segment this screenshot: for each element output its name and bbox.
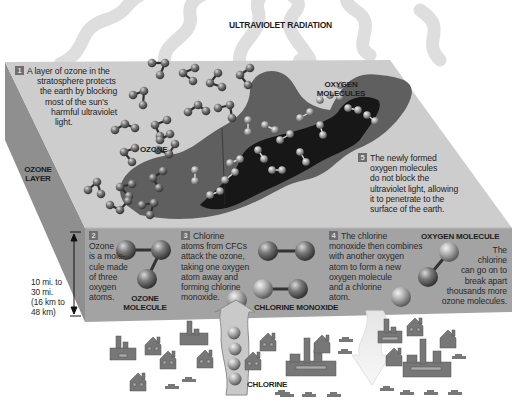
- step-2-text: 2 Ozone is a mole- cule made of three ox…: [89, 231, 139, 302]
- step-2-line: oxygen: [89, 282, 139, 292]
- step-2-line: Ozone: [89, 241, 139, 251]
- ozone-molecule-label: OZONE MOLECULE: [120, 294, 170, 312]
- ozone-layer-line: OZONE: [18, 165, 58, 174]
- oxygen-molecule-label: OXYGEN MOLECULE: [421, 232, 499, 241]
- step-3-line: atom away and: [181, 272, 263, 282]
- step-1-line: most of the sun's: [15, 97, 145, 107]
- step-6-line: The: [425, 245, 507, 255]
- step-2-badge: 2: [89, 231, 98, 240]
- step-6-text: The chlorine can go on to break apart th…: [425, 245, 507, 306]
- ozone-molecule-line: MOLECULE: [120, 303, 170, 312]
- oxygen-molecules-line: MOLECULES: [316, 89, 366, 98]
- step-2-line: of three: [89, 272, 139, 282]
- ozone-molecule-line: OZONE: [120, 294, 170, 303]
- step-1-line: light.: [15, 117, 145, 127]
- step-1-line: A layer of ozone in the: [27, 66, 110, 76]
- step-3-text: 3Chlorine atoms from CFCs attack the ozo…: [181, 231, 263, 302]
- step-2-line: is a mole-: [89, 251, 139, 261]
- ozone-label: OZONE: [140, 145, 167, 154]
- step-3-line: forming chlorine: [181, 282, 263, 292]
- oxygen-molecules-line: OXYGEN: [316, 80, 366, 89]
- step-6-line: ozone molecules.: [425, 296, 507, 306]
- step-4-line: atom to form a new: [329, 262, 429, 272]
- step-3-line: atoms from CFCs: [181, 241, 263, 251]
- step-4-badge: 4: [329, 231, 338, 240]
- step-4-line: oxygen molecule: [329, 272, 429, 282]
- altitude-line: 10 mi. to: [31, 277, 71, 287]
- step-5-badge: 5: [358, 153, 367, 162]
- step-5-line: do not block the: [358, 173, 498, 183]
- step-2-line: cule made: [89, 262, 139, 272]
- ozone-depletion-diagram: ULTRAVIOLET RADIATION 1A layer of ozone …: [0, 0, 512, 405]
- step-4-line: and a chlorine: [329, 282, 429, 292]
- step-1-text: 1A layer of ozone in the stratosphere pr…: [15, 66, 145, 127]
- altitude-line: 48 km): [31, 307, 71, 317]
- step-5-line: surface of the earth.: [358, 204, 498, 214]
- step-5-line: ultraviolet light, allowing: [358, 184, 498, 194]
- step-4-line: monoxide then combines: [329, 241, 429, 251]
- step-3-line: Chlorine: [193, 231, 224, 241]
- step-3-line: attack the ozone,: [181, 251, 263, 261]
- step-6-line: break apart: [425, 276, 507, 286]
- step-3-line: taking one oxygen: [181, 262, 263, 272]
- step-5-text: 5The newly formed oxygen molecules do no…: [358, 153, 498, 214]
- uv-rays: [60, 0, 440, 66]
- ozone-layer-label: OZONE LAYER: [18, 165, 58, 183]
- step-5-line: it to penetrate to the: [358, 194, 498, 204]
- step-6-line: can go on to: [425, 265, 507, 275]
- step-4-line: with another oxygen: [329, 251, 429, 261]
- chlorine-label: CHLORINE: [247, 380, 287, 389]
- oxygen-molecules-label: OXYGEN MOLECULES: [316, 80, 366, 98]
- step-1-line: harmful ultraviolet: [15, 107, 145, 117]
- chlorine-monoxide-label: CHLORINE MONOXIDE: [254, 303, 338, 312]
- step-4-line: atom.: [329, 292, 429, 302]
- step-4-text: 4The chlorine monoxide then combines wit…: [329, 231, 429, 302]
- step-6-line: thousands more: [425, 286, 507, 296]
- step-6-line: chlorine: [425, 255, 507, 265]
- altitude-line: (16 km to: [31, 297, 71, 307]
- step-3-badge: 3: [181, 231, 190, 240]
- step-3-line: monoxide.: [181, 292, 263, 302]
- step-1-badge: 1: [15, 66, 24, 75]
- step-1-line: the earth by blocking: [15, 86, 145, 96]
- step-5-line: The newly formed: [370, 153, 437, 163]
- altitude-line: 30 mi.: [31, 287, 71, 297]
- step-4-line: The chlorine: [341, 231, 387, 241]
- step-1-line: stratosphere protects: [15, 76, 145, 86]
- title-ultraviolet-radiation: ULTRAVIOLET RADIATION: [229, 20, 332, 30]
- altitude-label: 10 mi. to 30 mi. (16 km to 48 km): [31, 277, 71, 317]
- step-5-line: oxygen molecules: [358, 163, 498, 173]
- ozone-layer-line: LAYER: [18, 174, 58, 183]
